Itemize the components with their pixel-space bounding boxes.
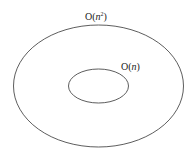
label-suffix: ) (104, 11, 107, 22)
outer-set-label: O(n2) (85, 11, 107, 22)
set-diagram (0, 0, 192, 151)
outer-set-ellipse (14, 25, 184, 147)
inner-set-ellipse (69, 69, 129, 103)
label-suffix: ) (137, 61, 140, 72)
inner-set-label: O(n) (121, 62, 140, 72)
label-prefix: O( (85, 11, 96, 22)
label-prefix: O( (121, 61, 132, 72)
